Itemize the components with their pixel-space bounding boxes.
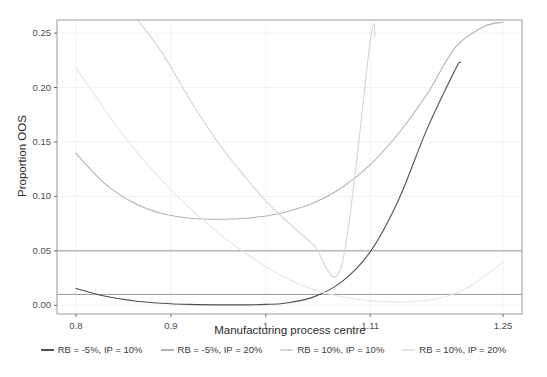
- y-tick-label: 0.25: [11, 27, 51, 38]
- legend-item-label: RB = 10%, IP = 20%: [419, 344, 506, 355]
- series-line-1: [76, 22, 503, 219]
- reference-lines: [57, 251, 522, 295]
- y-tick-label: 0.05: [11, 245, 51, 256]
- gridlines: [57, 20, 522, 314]
- panel-frame: [57, 20, 522, 314]
- legend-item-2[interactable]: RB = 10%, IP = 10%: [280, 344, 384, 355]
- legend-item-3[interactable]: RB = 10%, IP = 20%: [402, 344, 506, 355]
- chart-legend: RB = -5%, IP = 10%RB = -5%, IP = 20%RB =…: [0, 344, 547, 355]
- legend-line-icon: [280, 349, 293, 351]
- legend-item-0[interactable]: RB = -5%, IP = 10%: [41, 344, 143, 355]
- legend-item-label: RB = -5%, IP = 10%: [58, 344, 143, 355]
- y-tick-label: 0.00: [11, 299, 51, 310]
- legend-line-icon: [41, 349, 54, 351]
- panel-border: [57, 20, 522, 314]
- data-series: [76, 20, 503, 305]
- legend-item-label: RB = -5%, IP = 20%: [178, 344, 263, 355]
- legend-item-1[interactable]: RB = -5%, IP = 20%: [161, 344, 263, 355]
- series-line-2: [138, 20, 375, 277]
- legend-line-icon: [402, 349, 415, 351]
- x-axis-title: Manufacturing process centre: [57, 324, 523, 336]
- chart-container: 0.000.050.100.150.200.25 0.80.911.111.25…: [0, 0, 547, 377]
- legend-item-label: RB = 10%, IP = 10%: [297, 344, 384, 355]
- legend-line-icon: [161, 349, 174, 351]
- y-axis-title: Proportion OOS: [16, 86, 28, 226]
